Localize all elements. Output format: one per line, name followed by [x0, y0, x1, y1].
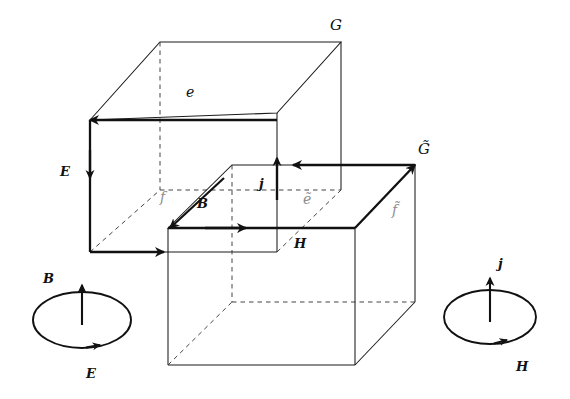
cube-geometry-layer	[0, 0, 570, 399]
label-field-H-cube: H	[294, 237, 306, 250]
inset-right-loop-label: H	[516, 360, 528, 373]
label-primal-edge: e	[186, 85, 194, 99]
inset-right-axis-label: j	[498, 257, 503, 270]
primal-cube-solid-edges	[90, 42, 341, 252]
ampere-inset-graphics	[444, 278, 536, 344]
inset-left-loop-label: E	[86, 367, 96, 380]
inset-left-axis-label: B	[43, 272, 54, 285]
physics-diagram: G G̃ e ẽ f f̃ E B H j B E j H	[0, 0, 570, 399]
label-primal-grid: G	[330, 18, 342, 33]
primal-cube-hidden-edges	[90, 42, 341, 252]
faraday-inset-graphics	[33, 285, 131, 348]
dual-edge-f-tilde	[355, 165, 415, 228]
label-primal-face: f	[160, 190, 165, 204]
label-field-E-cube: E	[60, 165, 70, 178]
label-dual-grid: G̃	[418, 142, 430, 157]
label-field-j-cube: j	[259, 177, 264, 190]
label-field-B-cube: B	[197, 197, 208, 210]
label-dual-face: f̃	[392, 203, 397, 217]
label-dual-edge: ẽ	[303, 192, 311, 206]
